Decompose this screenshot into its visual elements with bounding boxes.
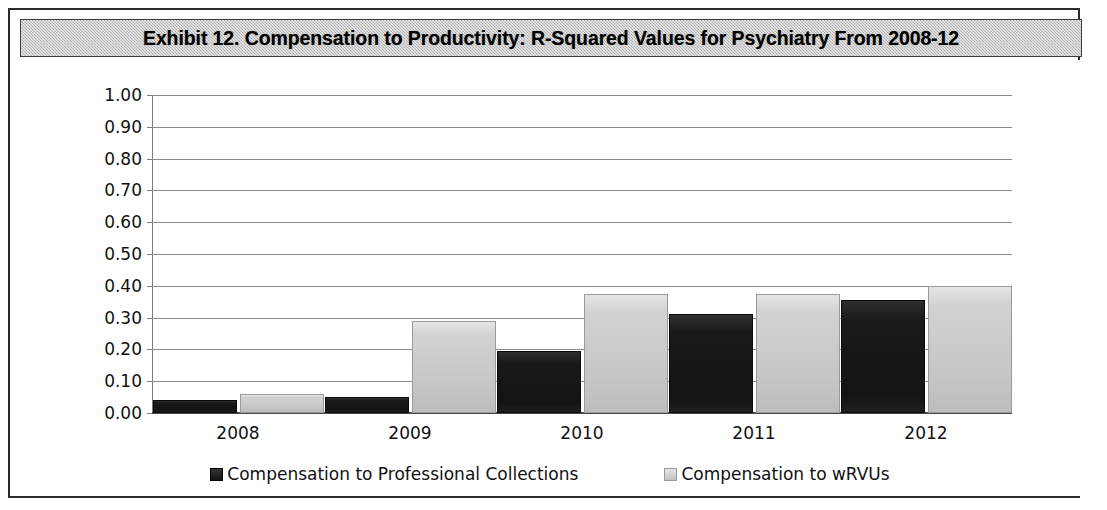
gridline	[152, 286, 1012, 287]
bar-2011-series2	[756, 294, 840, 413]
exhibit-screenshot: Exhibit 12. Compensation to Productivity…	[0, 0, 1107, 510]
x-axis-label-2008: 2008	[216, 423, 259, 443]
x-axis-label-2010: 2010	[560, 423, 603, 443]
y-axis-tick-label: 0.60	[104, 212, 142, 232]
gridline	[152, 190, 1012, 191]
y-axis-tick-label: 0.40	[104, 276, 142, 296]
gridline	[152, 254, 1012, 255]
x-axis-label-2012: 2012	[904, 423, 947, 443]
gridline	[152, 222, 1012, 223]
y-axis-tick-label: 0.90	[104, 117, 142, 137]
y-axis-tick	[147, 95, 152, 96]
y-axis-tick-label: 0.80	[104, 149, 142, 169]
y-axis-tick	[147, 349, 152, 350]
y-axis-tick-label: 0.20	[104, 339, 142, 359]
bar-2012-series2	[928, 286, 1012, 413]
y-axis-tick	[147, 127, 152, 128]
y-axis-tick	[147, 190, 152, 191]
y-axis-tick-label: 0.00	[104, 403, 142, 423]
y-axis-tick-label: 1.00	[104, 85, 142, 105]
x-axis-label-2011: 2011	[732, 423, 775, 443]
bar-2009-series1	[325, 397, 409, 413]
y-axis-tick	[147, 222, 152, 223]
legend-item-2[interactable]: Compensation to wRVUs	[664, 464, 889, 484]
exhibit-title: Exhibit 12. Compensation to Productivity…	[143, 27, 959, 50]
plot-area: 1.000.900.800.700.600.500.400.300.200.10…	[152, 95, 1012, 413]
y-axis-tick	[147, 413, 152, 414]
legend-item-1[interactable]: Compensation to Professional Collections	[210, 464, 578, 484]
legend-label: Compensation to Professional Collections	[227, 464, 578, 484]
y-axis-tick-label: 0.70	[104, 180, 142, 200]
bar-2009-series2	[412, 321, 496, 413]
y-axis-tick	[147, 254, 152, 255]
legend-label: Compensation to wRVUs	[681, 464, 889, 484]
y-axis-tick-label: 0.10	[104, 371, 142, 391]
x-axis-label-2009: 2009	[388, 423, 431, 443]
y-axis-tick	[147, 286, 152, 287]
bar-2008-series2	[240, 394, 324, 413]
bar-2012-series1	[841, 300, 925, 413]
y-axis-tick-label: 0.50	[104, 244, 142, 264]
gridline	[152, 159, 1012, 160]
y-axis-tick	[147, 318, 152, 319]
y-axis-tick	[147, 159, 152, 160]
bar-2011-series1	[669, 314, 753, 413]
bar-2010-series2	[584, 294, 668, 413]
chart-legend: Compensation to Professional Collections…	[20, 464, 1080, 484]
chart-canvas: 1.000.900.800.700.600.500.400.300.200.10…	[20, 60, 1080, 496]
exhibit-panel: Exhibit 12. Compensation to Productivity…	[8, 8, 1080, 498]
gridline	[152, 95, 1012, 96]
exhibit-title-bar: Exhibit 12. Compensation to Productivity…	[20, 19, 1082, 57]
legend-swatch-icon	[210, 468, 223, 481]
bar-2010-series1	[497, 351, 581, 413]
legend-swatch-icon	[664, 468, 677, 481]
y-axis-tick-label: 0.30	[104, 308, 142, 328]
gridline	[152, 127, 1012, 128]
y-axis-tick	[147, 381, 152, 382]
bar-2008-series1	[153, 400, 237, 413]
